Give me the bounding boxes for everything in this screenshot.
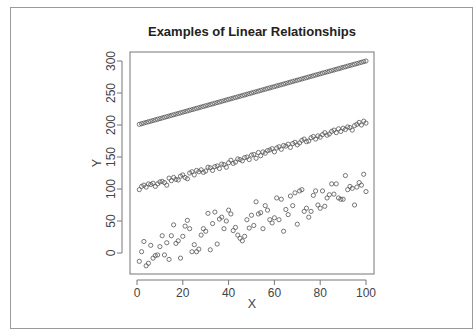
data-point (206, 211, 210, 215)
x-tick-label: 40 (222, 286, 236, 300)
data-point (259, 154, 263, 158)
data-point (227, 208, 231, 212)
chart-title: Examples of Linear Relationships (148, 24, 356, 39)
y-axis-label: Y (90, 158, 104, 167)
data-point (162, 253, 166, 257)
data-point (304, 206, 308, 210)
data-point (336, 127, 340, 131)
data-point (169, 234, 173, 238)
data-point (192, 243, 196, 247)
data-point (165, 183, 169, 187)
data-point (149, 243, 153, 247)
data-point (311, 193, 315, 197)
data-point (288, 194, 292, 198)
data-point (185, 218, 189, 222)
data-point (160, 234, 164, 238)
x-axis-label: X (248, 297, 257, 311)
data-point (254, 200, 258, 204)
data-point (197, 247, 201, 251)
data-point (288, 145, 292, 149)
data-point (247, 226, 251, 230)
data-point (330, 182, 334, 186)
data-point (332, 192, 336, 196)
data-point (359, 183, 363, 187)
data-point (240, 239, 244, 243)
data-point (263, 204, 267, 208)
data-point (318, 206, 322, 210)
data-point (167, 176, 171, 180)
data-point (158, 245, 162, 249)
data-point (243, 234, 247, 238)
data-point (293, 191, 297, 195)
y-tick-label: 0 (104, 249, 118, 256)
data-point (323, 204, 327, 208)
data-point (314, 189, 318, 193)
data-point (272, 216, 276, 220)
data-point (327, 193, 331, 197)
data-point (167, 257, 171, 261)
data-point (252, 223, 256, 227)
x-tick-label: 20 (176, 286, 190, 300)
data-point (352, 203, 356, 207)
data-point (247, 157, 251, 161)
y-tick-label: 300 (104, 51, 118, 71)
data-point (183, 224, 187, 228)
data-point (213, 210, 217, 214)
data-point (229, 212, 233, 216)
data-point (249, 213, 253, 217)
data-point (320, 189, 324, 193)
x-tick-label: 80 (314, 286, 328, 300)
data-point (192, 173, 196, 177)
data-point (279, 147, 283, 151)
data-point (210, 221, 214, 225)
data-point (357, 181, 361, 185)
data-point (210, 168, 214, 172)
data-point (172, 223, 176, 227)
data-point (265, 208, 269, 212)
data-point (309, 209, 313, 213)
data-point (272, 150, 276, 154)
data-point (334, 182, 338, 186)
data-point (204, 229, 208, 233)
data-point (279, 197, 283, 201)
data-point (215, 242, 219, 246)
data-point (174, 241, 178, 245)
data-point (190, 250, 194, 254)
y-tick-label: 200 (104, 115, 118, 135)
data-point (281, 229, 285, 233)
data-point (295, 222, 299, 226)
data-point (194, 250, 198, 254)
data-point (153, 184, 157, 188)
data-point (178, 256, 182, 260)
data-point (217, 166, 221, 170)
data-point (254, 156, 258, 160)
data-point (275, 196, 279, 200)
data-point (334, 131, 338, 135)
data-point (284, 207, 288, 211)
scatter-chart: Examples of Linear Relationships 0501001… (0, 0, 476, 335)
x-tick-label: 100 (356, 286, 376, 300)
y-tick-label: 150 (104, 147, 118, 167)
data-point (201, 227, 205, 231)
data-point (165, 241, 169, 245)
y-axis: 050100150200250300 (104, 51, 122, 257)
data-point (144, 264, 148, 268)
data-point (261, 227, 265, 231)
data-point (199, 233, 203, 237)
data-point (362, 172, 366, 176)
data-point (188, 227, 192, 231)
data-point (181, 234, 185, 238)
data-point (222, 227, 226, 231)
data-point (233, 225, 237, 229)
data-point (355, 185, 359, 189)
data-point (146, 261, 150, 265)
data-point (137, 259, 141, 263)
data-point (277, 218, 281, 222)
data-point (291, 204, 295, 208)
x-tick-label: 0 (134, 286, 141, 300)
data-point (176, 239, 180, 243)
data-point (364, 189, 368, 193)
data-point (245, 218, 249, 222)
data-points (137, 59, 368, 268)
data-point (286, 213, 290, 217)
